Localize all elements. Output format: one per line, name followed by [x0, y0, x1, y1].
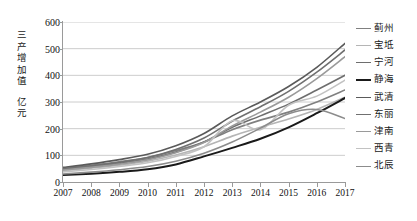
- x-axis-tick-mark: [345, 183, 346, 187]
- x-axis-tick-mark: [176, 183, 177, 187]
- y-axis-unit-char: 亿: [14, 97, 30, 109]
- legend-item[interactable]: 北辰: [356, 158, 414, 175]
- legend-swatch: [356, 114, 371, 115]
- x-axis-tick-mark: [119, 183, 120, 187]
- legend-label: 西青: [374, 144, 394, 154]
- legend-item[interactable]: 东丽: [356, 106, 414, 123]
- legend-item[interactable]: 西青: [356, 140, 414, 157]
- y-axis-title-char: 加: [14, 65, 30, 77]
- x-axis-tick-label: 2014: [251, 188, 270, 198]
- legend-label: 宝坻: [374, 41, 394, 51]
- legend-item[interactable]: 宁河: [356, 54, 414, 71]
- x-axis-tick-label: 2010: [138, 188, 157, 198]
- x-axis-tick-mark: [204, 183, 205, 187]
- y-axis-title: 三 产 增 加 值 亿 元: [14, 30, 30, 120]
- x-axis-tick-mark: [289, 183, 290, 187]
- y-axis-title-char: 三: [14, 30, 30, 42]
- legend-label: 武清: [374, 93, 394, 103]
- legend-item[interactable]: 津南: [356, 123, 414, 140]
- legend-label: 东丽: [374, 110, 394, 120]
- x-axis-tick-mark: [91, 183, 92, 187]
- line-chart: 三 产 增 加 值 亿 元 0100200300400500600 200720…: [0, 0, 417, 221]
- legend-swatch: [356, 97, 371, 98]
- y-axis-title-char: 产: [14, 42, 30, 54]
- x-axis-tick-label: 2015: [279, 188, 298, 198]
- y-axis-title-spacer: [14, 88, 30, 97]
- y-axis-title-char: 值: [14, 76, 30, 88]
- legend-swatch: [356, 62, 371, 63]
- series-line: [63, 43, 345, 167]
- x-axis-tick-label: 2016: [307, 188, 326, 198]
- legend-item[interactable]: 静海: [356, 72, 414, 89]
- legend-label: 蓟州: [374, 24, 394, 34]
- legend-swatch: [356, 28, 371, 29]
- legend-swatch: [356, 79, 371, 81]
- y-axis-unit-char: 元: [14, 108, 30, 120]
- x-axis-tick-label: 2017: [336, 188, 355, 198]
- legend-label: 静海: [374, 75, 394, 85]
- series-canvas: [63, 22, 345, 182]
- plot-area: [63, 22, 345, 182]
- legend-item[interactable]: 蓟州: [356, 20, 414, 37]
- x-axis-tick-label: 2013: [223, 188, 242, 198]
- y-axis-title-char: 增: [14, 53, 30, 65]
- x-axis-tick-label: 2008: [82, 188, 101, 198]
- legend: 蓟州宝坻宁河静海武清东丽津南西青北辰: [356, 20, 414, 175]
- series-line: [63, 80, 345, 172]
- x-axis-tick-label: 2009: [110, 188, 129, 198]
- legend-label: 北辰: [374, 161, 394, 171]
- x-axis-tick-mark: [63, 183, 64, 187]
- x-axis-tick-label: 2012: [195, 188, 214, 198]
- x-axis-tick-mark: [260, 183, 261, 187]
- x-axis-tick-labels: 2007200820092010201120122013201420152016…: [0, 188, 417, 208]
- legend-item[interactable]: 宝坻: [356, 37, 414, 54]
- legend-swatch: [356, 148, 371, 149]
- x-axis-tick-mark: [148, 183, 149, 187]
- legend-swatch: [356, 45, 371, 46]
- x-axis-tick-label: 2011: [166, 188, 185, 198]
- legend-item[interactable]: 武清: [356, 89, 414, 106]
- legend-swatch: [356, 166, 371, 167]
- legend-label: 宁河: [374, 58, 394, 68]
- legend-label: 津南: [374, 127, 394, 137]
- x-axis-tick-label: 2007: [54, 188, 73, 198]
- x-axis-tick-mark: [317, 183, 318, 187]
- x-axis-tick-mark: [232, 183, 233, 187]
- legend-swatch: [356, 131, 371, 132]
- series-line: [63, 50, 345, 169]
